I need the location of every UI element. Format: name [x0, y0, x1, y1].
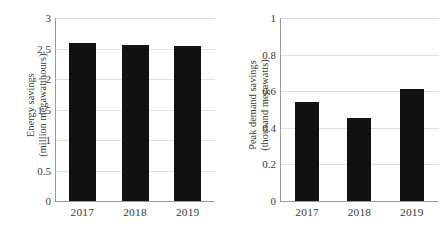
y-axis-title-line1: Peak demand savings	[247, 60, 258, 150]
x-axis-ticks-energy-savings: 2017 2018 2019	[56, 201, 214, 219]
bar-slot	[56, 18, 109, 201]
y-axis-title-line2: (million megawatthours)	[37, 5, 49, 205]
bar-slot	[386, 18, 438, 201]
plot-area-energy-savings: 0 0.5 1 1.5 2 2.5 3 2017	[55, 18, 214, 202]
bar-2018	[122, 45, 149, 201]
bar-chart-figure: Energy savings (million megawatthours) 0…	[0, 0, 445, 237]
chart-panel-energy-savings: Energy savings (million megawatthours) 0…	[0, 0, 222, 237]
plot-area-peak-demand-savings: 0 0.2 0.4 0.6 0.8 1 2017 20	[280, 18, 438, 202]
bar-2019	[400, 89, 424, 201]
x-tick-label-2018: 2018	[109, 206, 162, 219]
bar-slot	[333, 18, 385, 201]
x-tick-label-2017: 2017	[281, 206, 333, 219]
y-axis-title-line2: (thousand megawatts)	[259, 5, 271, 205]
bar-2017	[295, 102, 319, 201]
x-tick-label-2019: 2019	[161, 206, 214, 219]
bar-2017	[69, 43, 96, 201]
x-tick-label-2019: 2019	[386, 206, 438, 219]
y-axis-title-energy-savings: Energy savings (million megawatthours)	[13, 5, 47, 205]
y-axis-title-peak-demand-savings: Peak demand savings (thousand megawatts)	[235, 5, 269, 205]
bars-energy-savings	[56, 18, 214, 201]
bar-2019	[174, 46, 201, 201]
bars-peak-demand-savings	[281, 18, 438, 201]
chart-panel-peak-demand-savings: Peak demand savings (thousand megawatts)…	[222, 0, 444, 237]
x-axis-ticks-peak-demand-savings: 2017 2018 2019	[281, 201, 438, 219]
bar-slot	[161, 18, 214, 201]
bar-2018	[347, 118, 371, 201]
bar-slot	[109, 18, 162, 201]
y-axis-title-line1: Energy savings	[25, 73, 36, 137]
bar-slot	[281, 18, 333, 201]
x-tick-label-2018: 2018	[333, 206, 385, 219]
x-tick-label-2017: 2017	[56, 206, 109, 219]
